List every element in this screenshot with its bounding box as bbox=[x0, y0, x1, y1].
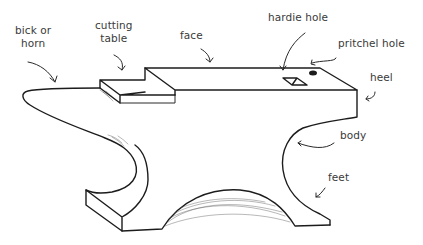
face-arrow bbox=[201, 49, 213, 62]
table-front-edge bbox=[120, 95, 175, 103]
cutting-table bbox=[100, 68, 175, 103]
anvil-diagram: bick or horn cutting table face hardie h… bbox=[0, 0, 423, 245]
horn-arrow bbox=[28, 62, 57, 82]
face-step bbox=[145, 68, 357, 95]
body-arrow bbox=[298, 141, 334, 148]
left-foot bbox=[86, 145, 148, 231]
label-feet: feet bbox=[328, 171, 349, 184]
heel-arrow bbox=[366, 92, 375, 101]
label-face: face bbox=[180, 29, 203, 42]
pritchel-hole bbox=[309, 71, 317, 76]
hardie-hole-arrow bbox=[280, 33, 305, 70]
label-pritchel-hole: pritchel hole bbox=[338, 37, 405, 50]
feet-arrow bbox=[316, 188, 325, 197]
heel-outline bbox=[282, 90, 357, 225]
label-body: body bbox=[340, 129, 366, 142]
label-cutting-table: cutting table bbox=[95, 19, 133, 45]
base-arch bbox=[122, 190, 330, 231]
cutting-table-arrow bbox=[114, 55, 125, 70]
horn-shading bbox=[100, 90, 114, 101]
label-horn: bick or horn bbox=[15, 24, 51, 50]
hardie-hole bbox=[283, 78, 307, 85]
label-heel: heel bbox=[370, 71, 393, 84]
arch-shading bbox=[165, 199, 290, 226]
label-hardie-hole: hardie hole bbox=[268, 11, 328, 24]
pritchel-hole-arrow bbox=[311, 58, 336, 65]
